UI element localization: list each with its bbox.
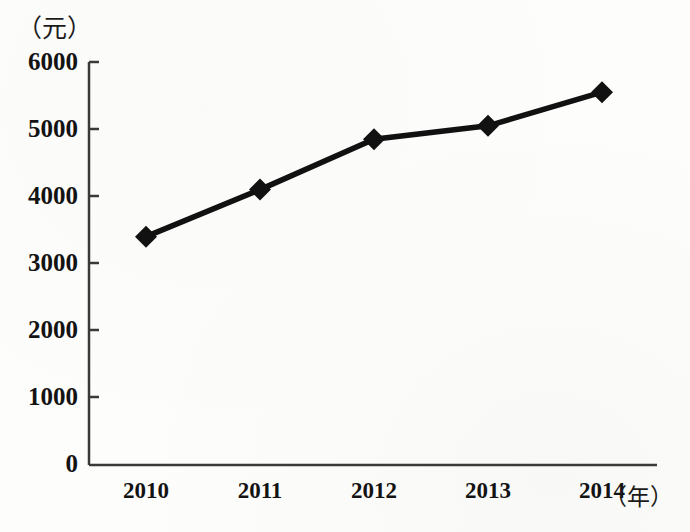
data-point-2013 xyxy=(477,115,499,137)
data-point-2010 xyxy=(135,226,157,248)
data-series-markers xyxy=(135,81,613,247)
data-point-2012 xyxy=(363,128,385,150)
data-point-2011 xyxy=(249,179,271,201)
y-axis-ticks xyxy=(89,62,99,397)
line-chart: （元） 6000 5000 4000 3000 2000 1000 0 2010… xyxy=(0,0,690,532)
plot-area xyxy=(0,0,690,532)
data-series-line xyxy=(146,92,602,236)
data-point-2014 xyxy=(591,81,613,103)
